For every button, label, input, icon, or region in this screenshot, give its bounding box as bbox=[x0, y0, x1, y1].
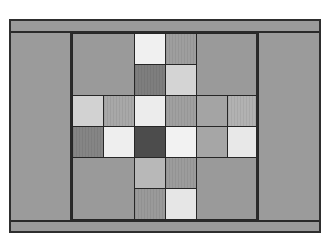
quilt-patch bbox=[134, 33, 166, 65]
quilt-patch bbox=[134, 95, 166, 127]
quilt-grid bbox=[72, 33, 260, 221]
quilt-patch bbox=[196, 157, 259, 220]
quilt-patch bbox=[103, 95, 135, 127]
quilt-patch bbox=[134, 126, 166, 158]
bottom-border-band bbox=[11, 220, 319, 231]
quilt-patch bbox=[72, 157, 135, 220]
quilt-frame bbox=[9, 19, 321, 233]
quilt-patch bbox=[165, 126, 197, 158]
quilt-patch bbox=[72, 126, 104, 158]
quilt-patch bbox=[103, 126, 135, 158]
quilt-patch bbox=[165, 33, 197, 65]
quilt-patch bbox=[227, 95, 259, 127]
quilt-patch bbox=[227, 126, 259, 158]
right-border-panel bbox=[256, 33, 319, 220]
quilt-patch bbox=[165, 188, 197, 220]
quilt-patch bbox=[72, 95, 104, 127]
quilt-patch bbox=[134, 64, 166, 96]
quilt-patch bbox=[72, 33, 135, 96]
quilt-patch bbox=[196, 126, 228, 158]
quilt-patch bbox=[196, 33, 259, 96]
quilt-patch bbox=[196, 95, 228, 127]
quilt-patch bbox=[165, 157, 197, 189]
quilt-patch bbox=[134, 188, 166, 220]
quilt-patch bbox=[165, 95, 197, 127]
quilt-patch bbox=[134, 157, 166, 189]
left-border-panel bbox=[11, 33, 72, 220]
top-border-band bbox=[11, 21, 319, 33]
quilt-patch bbox=[165, 64, 197, 96]
